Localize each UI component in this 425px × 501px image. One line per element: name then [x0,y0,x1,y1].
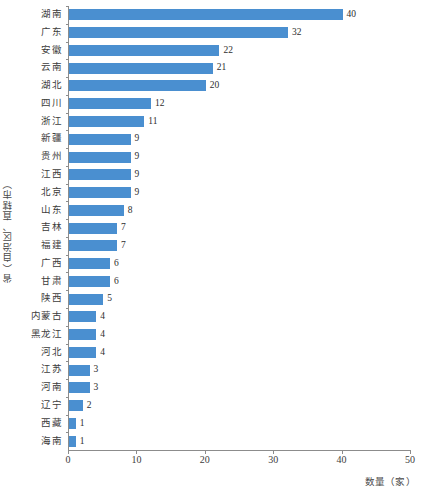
bar-row: 11 [69,113,411,131]
category-label: 浙江 [18,113,66,131]
bar [69,98,151,109]
bar-row: 32 [69,24,411,42]
bar [69,80,206,91]
category-label: 湖南 [18,6,66,24]
bar-value-label: 7 [121,241,126,251]
category-label: 湖北 [18,77,66,95]
bar-row: 2 [69,397,411,415]
y-axis-title-text: 省（自治区、直辖市） [4,178,14,283]
bar [69,63,213,74]
y-axis-tick [66,432,69,433]
bar-value-label: 32 [292,28,302,38]
y-axis-tick [66,77,69,78]
x-axis-title: 数量（家） [0,474,416,488]
bar-row: 9 [69,148,411,166]
bar-row: 4 [69,308,411,326]
category-label: 贵州 [18,148,66,166]
bar [69,169,131,180]
bar [69,258,110,269]
bar [69,365,90,376]
category-label: 黑龙江 [18,326,66,344]
y-axis-tick [66,201,69,202]
bar-value-label: 1 [80,419,85,429]
bar-value-label: 4 [100,312,105,322]
bar [69,152,131,163]
bar-row: 8 [69,201,411,219]
bar [69,311,96,322]
bar-value-label: 6 [114,277,119,287]
category-label: 广西 [18,255,66,273]
bar [69,187,131,198]
bar [69,240,117,251]
y-axis-tick [66,290,69,291]
bar-row: 1 [69,415,411,433]
x-axis-tick-label: 40 [337,455,347,465]
y-axis-tick [66,308,69,309]
bar-row: 7 [69,219,411,237]
bar-row: 6 [69,255,411,273]
category-label: 辽宁 [18,397,66,415]
x-axis-tick-label: 30 [268,455,278,465]
category-label: 江苏 [18,361,66,379]
category-label: 广东 [18,24,66,42]
category-label: 福建 [18,237,66,255]
bar [69,347,96,358]
y-axis-tick [66,166,69,167]
bar [69,223,117,234]
bar-row: 20 [69,77,411,95]
bar-value-label: 22 [223,46,233,56]
category-label: 河南 [18,379,66,397]
bar-value-label: 11 [148,117,157,127]
bar-row: 9 [69,184,411,202]
bar-value-label: 9 [135,152,140,162]
bar-value-label: 40 [347,10,357,20]
category-label: 吉林 [18,219,66,237]
y-axis-title: 省（自治区、直辖市） [0,0,18,460]
bar-value-label: 9 [135,170,140,180]
bar-value-label: 4 [100,330,105,340]
category-label: 陕西 [18,290,66,308]
bar-value-label: 4 [100,348,105,358]
bar [69,382,90,393]
bar-value-label: 6 [114,259,119,269]
y-axis-tick [66,59,69,60]
y-axis-tick [66,184,69,185]
category-label: 山东 [18,201,66,219]
bar [69,116,144,127]
category-label: 甘肃 [18,272,66,290]
bar-row: 9 [69,130,411,148]
bar-value-label: 9 [135,134,140,144]
x-axis-tick-label: 10 [131,455,141,465]
bar-value-label: 20 [210,81,220,91]
bar-value-label: 3 [94,383,99,393]
bar-row: 12 [69,95,411,113]
y-axis-tick [66,113,69,114]
category-label: 北京 [18,184,66,202]
bars-layer: 40322221201211999987766544433211 [69,6,411,450]
y-axis-tick [66,361,69,362]
bar [69,276,110,287]
y-axis-tick [66,237,69,238]
category-axis: 湖南广东安徽云南湖北四川浙江新疆贵州江西北京山东吉林福建广西甘肃陕西内蒙古黑龙江… [18,6,66,450]
category-label: 四川 [18,95,66,113]
bar [69,329,96,340]
x-axis-tick-label: 20 [200,455,210,465]
y-axis-tick [66,255,69,256]
y-axis-tick [66,397,69,398]
bar-value-label: 1 [80,437,85,447]
category-label: 江西 [18,166,66,184]
category-label: 西藏 [18,415,66,433]
y-axis-tick [66,24,69,25]
bar-row: 6 [69,272,411,290]
bar-value-label: 5 [107,294,112,304]
y-axis-tick [66,344,69,345]
bar-row: 9 [69,166,411,184]
y-axis-tick [66,415,69,416]
bar-value-label: 7 [121,223,126,233]
category-label: 安徽 [18,42,66,60]
bar-value-label: 3 [94,365,99,375]
y-axis-tick [66,379,69,380]
y-axis-tick [66,130,69,131]
bar-value-label: 2 [87,401,92,411]
bar [69,400,83,411]
